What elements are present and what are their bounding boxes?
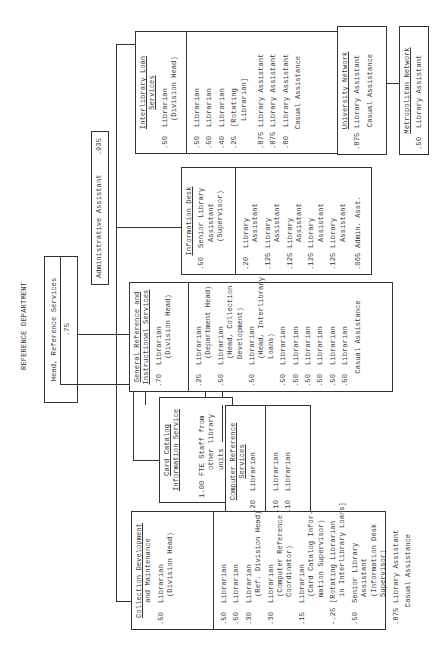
fte-value: .125 <box>286 248 305 270</box>
role-note: (Ref. Division Head) <box>254 511 263 603</box>
fte-value: .50 <box>415 128 424 150</box>
role: Librarian <box>157 564 165 603</box>
head-fte: .75 <box>63 257 72 402</box>
role: Librarian <box>292 287 301 365</box>
fte-value: .875 <box>392 603 401 625</box>
role-note: Librarian] <box>240 36 249 127</box>
fte-value: .125 <box>264 248 283 270</box>
role: Library Assistant <box>353 27 362 128</box>
role: Librarian <box>267 564 275 603</box>
admin-fte: .935 <box>95 138 104 155</box>
fte-value: .20 <box>242 248 261 270</box>
unit-title: Services <box>148 36 157 149</box>
role-note: Assistant <box>317 172 326 248</box>
admin-label: Administrative Assistant <box>95 174 104 278</box>
connector <box>387 83 399 84</box>
role-note: (Head, Collection <box>226 286 235 365</box>
fte-value: .50 <box>304 365 313 387</box>
fte-value: .065 <box>354 248 363 270</box>
role: Library Assistant <box>415 27 424 128</box>
connector <box>222 405 223 442</box>
fte-value: .20 <box>249 491 258 513</box>
role: Librarian <box>249 452 257 491</box>
role: Library Assistant <box>392 516 401 603</box>
chart-title: REFERENCE DEPARTMENT <box>20 282 29 370</box>
unit-title: Interlibrary Loan <box>139 36 148 149</box>
fte-value: .15 <box>298 603 326 625</box>
role: Librarian <box>284 410 293 491</box>
unit-title: General Reference and <box>133 287 142 387</box>
unit-title: Metropolitan Network <box>403 27 412 154</box>
role-note: mation Supervisor) <box>317 511 326 603</box>
fte-value: .80 <box>282 127 291 149</box>
main-branch-line <box>116 44 117 602</box>
role-note: Assistant <box>207 172 216 248</box>
fte-value: .50 <box>220 603 229 625</box>
fte-value: .30 <box>245 603 264 625</box>
fte-value: .50 <box>248 365 276 387</box>
unit-title: Card Catalog <box>163 402 172 498</box>
fte-value: .125 <box>329 248 348 270</box>
casual-assistance: Casual Assistance <box>366 27 375 154</box>
casual-assistance: Casual Assistance <box>294 36 303 149</box>
role: Library <box>242 218 250 248</box>
role: FTE Staff from <box>198 416 206 476</box>
casual-assistance: Casual Assistance <box>354 287 363 387</box>
fte-value: .50 <box>279 365 288 387</box>
role-note: (Supervisor) <box>216 172 225 248</box>
casual-assistance: Casual Assistance <box>404 516 413 625</box>
role: Senior Library <box>351 543 359 603</box>
connector <box>116 44 135 45</box>
role: Librarian <box>195 326 203 365</box>
org-chart: REFERENCE DEPARTMENT Head, Reference Ser… <box>0 0 439 664</box>
connector <box>60 384 130 385</box>
role: Library Assistant <box>257 36 266 127</box>
connector <box>133 460 159 461</box>
university-network-box: University Network .875Library Assistant… <box>337 26 387 155</box>
role: Librarian <box>155 326 163 365</box>
connector <box>116 227 181 228</box>
collection-development-box: Collection Development and Maintenance .… <box>131 511 386 630</box>
role: Librarian <box>272 410 281 491</box>
role: Librarian <box>218 36 227 127</box>
fte-value: .25 <box>230 127 249 149</box>
unit-title: Information Desk <box>185 172 194 270</box>
role: Librarian <box>161 88 169 127</box>
fte-value: .10 <box>272 491 281 513</box>
connector <box>116 601 131 602</box>
role-note: (Division Head) <box>166 516 175 603</box>
role: Librarian <box>279 287 288 365</box>
connector <box>60 256 61 384</box>
role-note: in Interlibrary Loans] <box>338 502 347 603</box>
fte-value: .50 <box>329 365 338 387</box>
role-note: Loans) <box>267 277 276 365</box>
role: Librarian <box>341 287 350 365</box>
role: [Rotating Librarian <box>329 521 337 603</box>
role: Library Assistant <box>282 36 291 127</box>
unit-title: and Maintenance <box>144 516 153 625</box>
head-label: Head, Reference Services <box>50 257 59 402</box>
role-note: Assistant <box>339 172 348 248</box>
role: Librarian <box>304 287 313 365</box>
unit-title: Instructional Services <box>142 287 151 387</box>
role: Librarian <box>298 564 306 603</box>
fte-value: 1.00 <box>198 476 226 498</box>
fte-value: .50 <box>205 127 214 149</box>
unit-title: Computer Reference <box>229 410 238 513</box>
role-note: Development) <box>236 286 245 365</box>
unit-title: Services <box>238 410 247 513</box>
fte-value: .10 <box>284 491 293 513</box>
metropolitan-network-box: Metropolitan Network .50Library Assistan… <box>399 26 429 155</box>
connector <box>133 392 134 461</box>
role-note: (Division Head) <box>164 287 173 365</box>
role-note: Assistant <box>295 172 304 248</box>
fte-value: .125 <box>307 248 326 270</box>
information-desk-box: Information Desk .50Senior LibraryAssist… <box>181 167 372 275</box>
fte-value: .25 <box>195 365 214 387</box>
connector <box>145 392 146 405</box>
role: Senior Library <box>197 188 205 248</box>
role-note: (Head, Interlibrary <box>257 277 266 365</box>
fte-value: .875 <box>257 127 266 149</box>
fte-value: .50 <box>197 248 225 270</box>
role: Library <box>307 218 315 248</box>
